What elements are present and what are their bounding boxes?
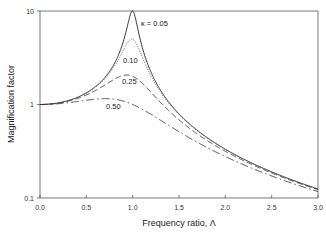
x-ticks: 0.0 0.5 1.0 1.5 2.0 2.5 3.0: [35, 195, 323, 211]
y-axis-title: Magnification factor: [6, 65, 16, 143]
curve-kappa-0.05: [40, 11, 318, 189]
curve-kappa-0.50: [40, 99, 318, 192]
x-tick-label: 3.0: [313, 204, 323, 211]
y-tick-label: 1: [30, 101, 34, 108]
x-tick-label: 2.0: [220, 204, 230, 211]
curves: [40, 11, 318, 192]
y-tick-label: 10: [26, 8, 34, 15]
x-tick-label: 2.5: [267, 204, 277, 211]
curve-label-kappa-0.50: 0.50: [106, 102, 121, 111]
curve-label-kappa-0.25: 0.25: [122, 77, 137, 86]
plot-area: [40, 11, 318, 198]
x-tick-label: 0.0: [35, 204, 45, 211]
x-tick-label: 1.0: [128, 204, 138, 211]
curve-kappa-0.25: [40, 75, 318, 190]
x-tick-label: 1.5: [174, 204, 184, 211]
curve-label-kappa-0.05: κ = 0.05: [141, 19, 168, 28]
y-tick-label: 0.1: [24, 195, 34, 202]
x-tick-label: 0.5: [81, 204, 91, 211]
y-ticks: 10 1 0.1: [24, 8, 40, 202]
magnification-chart: 10 1 0.1 0.0 0.5 1.0 1.5 2.0 2.5 3.0 Fre…: [0, 0, 326, 235]
x-axis-title: Frequency ratio, Λ: [142, 218, 216, 228]
curve-label-kappa-0.10: 0.10: [123, 56, 138, 65]
